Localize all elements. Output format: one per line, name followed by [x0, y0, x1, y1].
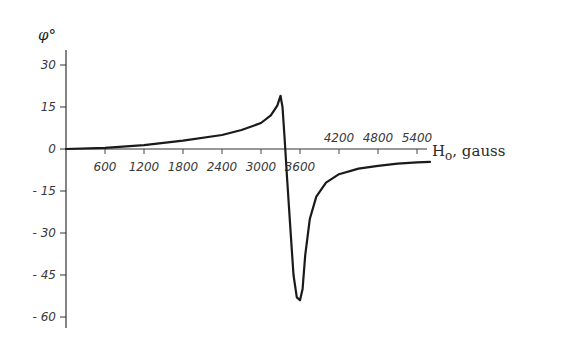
- x-tick-label: 600: [94, 160, 117, 174]
- x-axis: 60012001800240030003600420048005400: [66, 131, 433, 174]
- x-tick-label: 4800: [363, 131, 394, 145]
- x-tick-label: 2400: [207, 160, 238, 174]
- x-axis-label: Ho, gauss: [432, 142, 505, 163]
- y-tick-label: - 45: [33, 268, 56, 282]
- x-tick-label: 3000: [246, 160, 277, 174]
- phase-angle-chart: 30150- 15- 30- 45- 60 600120018002400300…: [0, 0, 581, 351]
- y-axis: 30150- 15- 30- 45- 60: [33, 50, 66, 328]
- y-tick-label: - 15: [33, 184, 56, 198]
- x-tick-label: 1200: [129, 160, 160, 174]
- x-tick-label: 5400: [402, 131, 433, 145]
- y-tick-label: 15: [41, 100, 56, 114]
- x-tick-label: 1800: [168, 160, 199, 174]
- y-tick-label: - 60: [33, 310, 57, 324]
- x-tick-label: 4200: [324, 131, 355, 145]
- y-axis-label: φ°: [38, 26, 56, 44]
- x-tick-label: 3600: [285, 160, 316, 174]
- y-tick-label: 0: [48, 142, 56, 156]
- y-tick-label: 30: [41, 58, 57, 72]
- data-curve: [66, 96, 430, 300]
- y-tick-label: - 30: [33, 226, 57, 240]
